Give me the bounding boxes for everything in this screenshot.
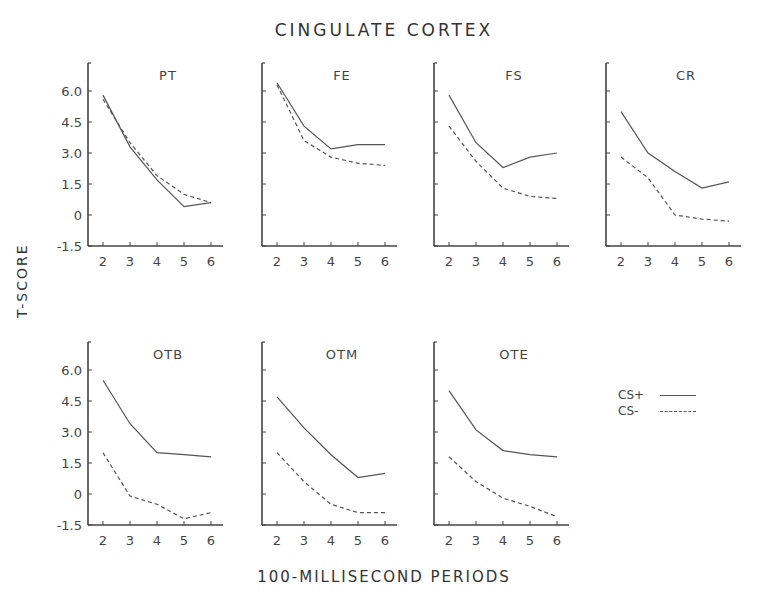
panel-fe: 23456FE xyxy=(262,63,397,269)
x-tick-label: 6 xyxy=(553,254,561,269)
panel-title: FE xyxy=(333,68,351,83)
x-tick-label: 4 xyxy=(671,254,679,269)
x-tick-label: 3 xyxy=(472,254,480,269)
x-tick-label: 2 xyxy=(445,533,453,548)
legend-label: CS+ xyxy=(618,388,660,402)
cs-plus-line xyxy=(103,380,211,457)
cs-plus-line xyxy=(277,397,385,478)
x-tick-label: 6 xyxy=(207,254,215,269)
cs-minus-line xyxy=(449,126,557,198)
x-tick-label: 5 xyxy=(180,533,188,548)
figure: CINGULATE CORTEX T-SCORE 100-MILLISECOND… xyxy=(0,0,768,608)
x-tick-label: 2 xyxy=(617,254,625,269)
solid-line-icon xyxy=(660,395,696,396)
x-tick-label: 5 xyxy=(526,254,534,269)
y-tick-label: 4.5 xyxy=(61,394,82,409)
x-tick-label: 3 xyxy=(644,254,652,269)
x-tick-label: 5 xyxy=(698,254,706,269)
x-tick-label: 4 xyxy=(327,533,335,548)
x-tick-label: 5 xyxy=(526,533,534,548)
y-tick-label: 0 xyxy=(74,208,82,223)
x-tick-label: 6 xyxy=(381,254,389,269)
panel-fs: 23456FS xyxy=(434,63,569,269)
x-tick-label: 5 xyxy=(354,254,362,269)
cs-plus-line xyxy=(103,95,211,207)
panel-cr: 23456CR xyxy=(606,63,741,269)
panel-title: OTB xyxy=(153,347,183,362)
x-tick-label: 5 xyxy=(180,254,188,269)
legend-item-cs-minus: CS- xyxy=(618,403,696,419)
legend: CS+ CS- xyxy=(618,387,696,419)
cs-minus-line xyxy=(103,99,211,202)
x-tick-label: 3 xyxy=(300,254,308,269)
panel-title: OTE xyxy=(499,347,528,362)
y-tick-label: -1.5 xyxy=(57,518,82,533)
panel-otm: 23456OTM xyxy=(262,342,397,548)
cs-plus-line xyxy=(449,391,557,457)
x-tick-label: 6 xyxy=(381,533,389,548)
x-tick-label: 2 xyxy=(99,533,107,548)
y-tick-label: 6.0 xyxy=(61,84,82,99)
cs-plus-line xyxy=(277,83,385,149)
cs-minus-line xyxy=(103,453,211,519)
x-tick-label: 6 xyxy=(553,533,561,548)
x-tick-label: 3 xyxy=(126,254,134,269)
x-tick-label: 2 xyxy=(273,533,281,548)
y-tick-label: 3.0 xyxy=(61,146,82,161)
x-tick-label: 2 xyxy=(273,254,281,269)
legend-item-cs-plus: CS+ xyxy=(618,387,696,403)
y-tick-label: 6.0 xyxy=(61,363,82,378)
y-tick-label: 3.0 xyxy=(61,425,82,440)
panel-title: OTM xyxy=(326,347,358,362)
cs-minus-line xyxy=(449,457,557,517)
x-tick-label: 4 xyxy=(499,533,507,548)
x-tick-label: 4 xyxy=(153,533,161,548)
x-tick-label: 4 xyxy=(327,254,335,269)
panel-pt: -1.501.53.04.56.023456PT xyxy=(57,63,223,269)
panel-title: PT xyxy=(159,68,177,83)
x-tick-label: 6 xyxy=(207,533,215,548)
x-tick-label: 3 xyxy=(472,533,480,548)
y-tick-label: 4.5 xyxy=(61,115,82,130)
panel-title: FS xyxy=(505,68,523,83)
x-tick-label: 4 xyxy=(499,254,507,269)
y-tick-label: 0 xyxy=(74,487,82,502)
y-tick-label: -1.5 xyxy=(57,239,82,254)
cs-minus-line xyxy=(621,157,729,221)
x-tick-label: 3 xyxy=(126,533,134,548)
cs-plus-line xyxy=(621,112,729,188)
cs-minus-line xyxy=(277,453,385,513)
x-tick-label: 5 xyxy=(354,533,362,548)
plot-area: -1.501.53.04.56.023456PT23456FE23456FS23… xyxy=(0,0,768,608)
y-tick-label: 1.5 xyxy=(61,456,82,471)
panel-title: CR xyxy=(676,68,696,83)
panel-otb: -1.501.53.04.56.023456OTB xyxy=(57,342,223,548)
cs-plus-line xyxy=(449,95,557,167)
x-tick-label: 6 xyxy=(725,254,733,269)
cs-minus-line xyxy=(277,85,385,166)
x-tick-label: 2 xyxy=(99,254,107,269)
dashed-line-icon xyxy=(660,411,696,412)
x-tick-label: 2 xyxy=(445,254,453,269)
panel-ote: 23456OTE xyxy=(434,342,569,548)
y-tick-label: 1.5 xyxy=(61,177,82,192)
x-tick-label: 4 xyxy=(153,254,161,269)
x-tick-label: 3 xyxy=(300,533,308,548)
legend-label: CS- xyxy=(618,404,660,418)
